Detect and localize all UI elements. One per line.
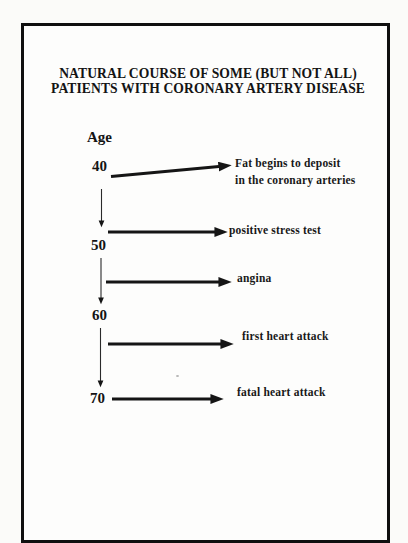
event-label-fat-deposit-line2: in the coronary arteries [235, 174, 356, 186]
event-label-positive-stress-test: positive stress test [229, 224, 321, 236]
event-label-first-heart-attack: first heart attack [242, 330, 329, 342]
event-label-angina: angina [237, 272, 271, 284]
scan-artifact-dot [176, 375, 179, 377]
event-label-fatal-heart-attack: fatal heart attack [237, 386, 326, 398]
arrow-fat-deposit [111, 167, 219, 177]
event-label-fat-deposit-line1: Fat begins to deposit [235, 157, 340, 169]
